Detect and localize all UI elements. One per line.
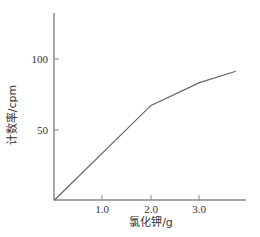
y-tick-50: 50 [37, 124, 59, 136]
x-tick-3: 3.0 [192, 195, 206, 215]
line-chart: 100 50 1.0 2.0 3.0 氯化钾/g 计数率/cpm [0, 0, 260, 237]
y-axis-label: 计数率/cpm [5, 85, 19, 145]
x-tick-label: 3.0 [192, 203, 206, 215]
y-tick-label: 100 [32, 53, 49, 65]
x-axis-label: 氯化钾/g [129, 215, 173, 229]
x-tick-2: 2.0 [144, 195, 158, 215]
y-tick-label: 50 [37, 124, 49, 136]
x-tick-label: 1.0 [95, 203, 109, 215]
data-line [54, 71, 236, 200]
x-tick-1: 1.0 [95, 195, 109, 215]
x-tick-label: 2.0 [144, 203, 158, 215]
y-tick-100: 100 [32, 53, 60, 65]
